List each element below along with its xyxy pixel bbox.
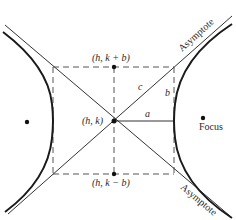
a-label: a	[145, 108, 150, 119]
center-point	[112, 119, 117, 124]
c-label: c	[138, 81, 143, 92]
top-point-label: (h, k + b)	[92, 52, 131, 64]
focus-right	[201, 116, 205, 120]
hyperbola-diagram: (h, k + b) (h, k) (h, k − b) a b c Focus…	[0, 0, 236, 220]
top-point	[112, 65, 116, 69]
focus-left	[25, 120, 29, 124]
center-label: (h, k)	[82, 115, 104, 127]
b-label: b	[165, 87, 170, 98]
bottom-point	[112, 172, 116, 176]
focus-label: Focus	[199, 121, 223, 132]
asymptote-label-bottom: Asymptote	[179, 181, 220, 218]
bottom-point-label: (h, k − b)	[92, 177, 131, 189]
